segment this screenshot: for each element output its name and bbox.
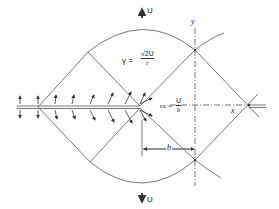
- x-axis-label: x: [231, 107, 235, 115]
- top-velocity-label: U: [147, 7, 153, 15]
- strain-numerator: U: [176, 97, 181, 104]
- y-axis-label: y: [191, 18, 195, 26]
- gamma-fraction: √2U r: [141, 50, 154, 67]
- distance-b-label: b: [166, 144, 172, 152]
- gamma-denominator: r: [146, 60, 149, 67]
- left-lower-slip-line: [38, 107, 90, 162]
- gamma-numerator: √2U: [141, 50, 154, 57]
- left-upper-slip-line: [38, 52, 88, 107]
- strain-fraction: U b: [176, 97, 181, 114]
- diagram-canvas: [0, 0, 279, 209]
- strain-denominator: b: [177, 107, 181, 114]
- lower-arc: [90, 160, 195, 183]
- bottom-velocity-label: U: [147, 196, 153, 204]
- strain-equation-lhs: ϵx =: [160, 103, 172, 110]
- gamma-equation-lhs: γ =: [122, 57, 133, 65]
- upper-arc: [88, 29, 195, 52]
